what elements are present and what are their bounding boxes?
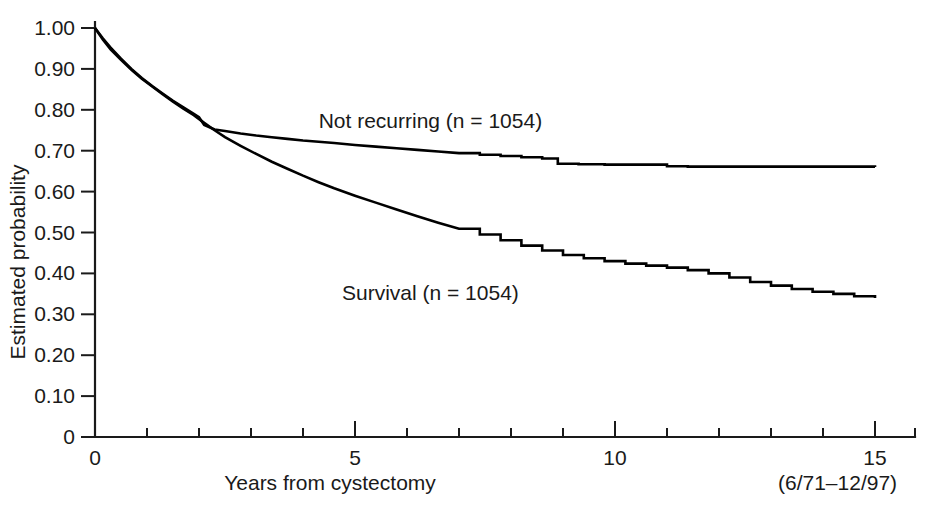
data-series [95,28,875,298]
y-tick-label-0.30: 0.30 [34,302,75,325]
date-range-note: (6/71–12/97) [778,471,897,494]
x-tick-label-15: 15 [863,446,886,469]
chart-canvas: 00.100.200.300.400.500.600.700.800.901.0… [0,0,932,517]
axis-lines [95,22,915,437]
y-tick-label-1.00: 1.00 [34,16,75,39]
y-tick-labels: 00.100.200.300.400.500.600.700.800.901.0… [34,16,75,448]
x-tick-labels: 051015 [89,446,887,469]
x-axis-title: Years from cystectomy [224,471,436,494]
survival-chart: 00.100.200.300.400.500.600.700.800.901.0… [0,0,932,517]
series-curve-not-recurring [95,28,875,167]
series-curve-survival [95,28,875,298]
y-axis-title: Estimated probability [6,164,29,359]
not-recurring-label: Not recurring (n = 1054) [319,109,543,132]
y-tick-label-0.40: 0.40 [34,261,75,284]
tick-marks [81,28,915,437]
axes [95,22,915,437]
x-tick-label-0: 0 [89,446,101,469]
x-tick-label-5: 5 [349,446,361,469]
y-tick-label-0.60: 0.60 [34,180,75,203]
y-tick-label-0.20: 0.20 [34,343,75,366]
series-annotations: Not recurring (n = 1054)Survival (n = 10… [319,109,543,304]
y-tick-label-0.50: 0.50 [34,221,75,244]
survival-label: Survival (n = 1054) [342,281,519,304]
x-tick-label-10: 10 [603,446,626,469]
y-tick-label-0.70: 0.70 [34,139,75,162]
y-tick-label-0: 0 [63,425,75,448]
y-tick-label-0.80: 0.80 [34,98,75,121]
y-tick-label-0.90: 0.90 [34,57,75,80]
y-tick-label-0.10: 0.10 [34,384,75,407]
